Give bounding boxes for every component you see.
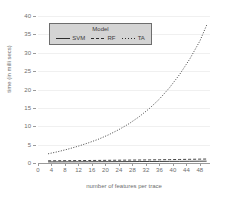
x-tick-label: 48 bbox=[191, 167, 209, 173]
y-tick-label: 10 bbox=[0, 123, 31, 129]
legend-title: Model bbox=[50, 26, 151, 33]
legend-swatch-dashed-icon bbox=[91, 36, 105, 41]
legend-swatch-solid-icon bbox=[56, 36, 70, 41]
y-axis-title: time (in milli secs) bbox=[6, 36, 12, 102]
legend-label: SVM bbox=[72, 35, 85, 41]
y-tick-label: 35 bbox=[0, 31, 31, 37]
y-tick-label: 5 bbox=[0, 142, 31, 148]
legend-entry-ta[interactable]: TA bbox=[122, 35, 145, 41]
legend-label: RF bbox=[107, 35, 115, 41]
y-tick-label: 15 bbox=[0, 105, 31, 111]
y-axis-line bbox=[36, 16, 37, 163]
legend-label: TA bbox=[138, 35, 145, 41]
x-axis-title: number of features per trace bbox=[38, 183, 210, 190]
legend-entry-rf[interactable]: RF bbox=[91, 35, 115, 41]
legend: Model SVMRFTA bbox=[49, 23, 152, 45]
legend-entries: SVMRFTA bbox=[50, 35, 151, 41]
y-tick-label: 25 bbox=[0, 68, 31, 74]
y-tick-label: 20 bbox=[0, 87, 31, 93]
y-tick-label: 40 bbox=[0, 13, 31, 19]
y-tick-label: 30 bbox=[0, 50, 31, 56]
x-axis-line bbox=[38, 163, 210, 164]
legend-entry-svm[interactable]: SVM bbox=[56, 35, 85, 41]
legend-swatch-dotted-icon bbox=[122, 36, 136, 41]
line-chart-figure: 0510152025303540 04812162024283236404448… bbox=[0, 0, 227, 197]
y-tick-label: 0 bbox=[0, 160, 31, 166]
series-line-rf bbox=[48, 159, 207, 161]
y-tick-mark bbox=[33, 163, 36, 164]
series-line-svm bbox=[48, 161, 207, 162]
